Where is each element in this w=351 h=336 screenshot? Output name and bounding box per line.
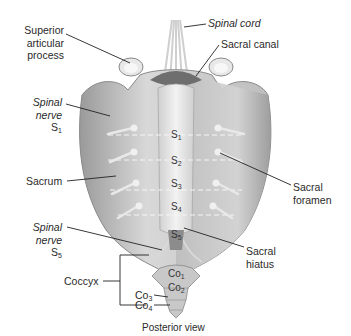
segment-s3: S3 bbox=[171, 178, 182, 189]
segment-s1: S1 bbox=[171, 129, 182, 140]
label-sacral-hiatus: Sacral hiatus bbox=[246, 245, 276, 270]
label-superior-articular-process: Superior articular process bbox=[14, 24, 64, 62]
label-coccyx: Coccyx bbox=[64, 275, 98, 288]
label-spinal-nerve-s1: Spinal nerve S1 bbox=[14, 96, 62, 134]
label-spinal-nerve-s5: Spinal nerve S5 bbox=[14, 221, 62, 259]
segment-co1: Co1 bbox=[168, 268, 185, 279]
segment-s5: S5 bbox=[171, 229, 182, 240]
segment-s2: S2 bbox=[171, 155, 182, 166]
label-sacral-foramen: Sacral foramen bbox=[293, 181, 332, 206]
label-sacrum: Sacrum bbox=[26, 175, 62, 188]
segment-s4: S4 bbox=[171, 201, 182, 212]
caption: Posterior view bbox=[142, 322, 205, 335]
label-sacral-canal: Sacral canal bbox=[221, 38, 279, 51]
label-co4: Co4 bbox=[135, 299, 152, 312]
label-spinal-cord: Spinal cord bbox=[208, 17, 261, 30]
segment-co2: Co2 bbox=[168, 282, 185, 293]
